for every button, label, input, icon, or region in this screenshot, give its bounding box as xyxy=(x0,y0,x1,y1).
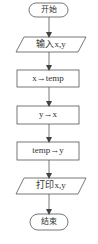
start-label: 开始 xyxy=(29,6,68,14)
input-label: 输入x,y xyxy=(20,40,82,49)
step1-label: x→temp xyxy=(17,74,79,83)
end-label: 结束 xyxy=(30,218,68,226)
output-label: 打印x,y xyxy=(20,181,82,190)
flowchart-canvas xyxy=(0,0,98,244)
step2-label: y→x xyxy=(17,110,79,119)
step3-label: temp→y xyxy=(17,146,79,155)
